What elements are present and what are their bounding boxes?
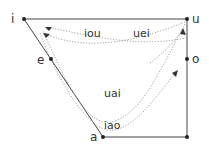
vertex-label-u: u xyxy=(192,12,200,26)
path-uai xyxy=(43,24,185,122)
path-iao xyxy=(40,33,176,130)
vertex-label-i: i xyxy=(11,12,14,26)
vertex-label-o: o xyxy=(192,52,199,66)
vowel-diagram: i u e o a iou uei uai iao xyxy=(0,0,209,153)
arrow-icon xyxy=(43,33,50,38)
arrow-icon xyxy=(45,27,52,31)
path-label-iao: iao xyxy=(104,119,121,132)
path-label-iou: iou xyxy=(84,27,101,40)
vertex-label-e: e xyxy=(37,53,44,67)
path-uei-up xyxy=(150,32,182,63)
path-label-uai: uai xyxy=(104,87,121,100)
path-label-uei: uei xyxy=(133,27,150,40)
vertex-label-a: a xyxy=(90,130,97,144)
arrow-icon xyxy=(172,70,178,77)
path-iou xyxy=(47,27,186,42)
arrowheads xyxy=(43,27,186,77)
